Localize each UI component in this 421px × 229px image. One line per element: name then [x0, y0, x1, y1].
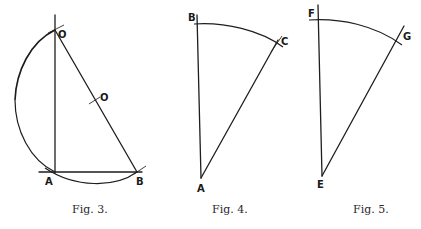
label-f: F: [308, 8, 315, 19]
label-mid-o: O: [100, 92, 109, 103]
caption-fig-3: Fig. 3.: [72, 203, 108, 216]
label-e: E: [317, 179, 324, 190]
label-g: G: [403, 31, 411, 42]
arc-f-g: [309, 20, 402, 45]
label-c: C: [281, 36, 288, 47]
line-a-c: [201, 40, 278, 178]
caption-fig-5: Fig. 5.: [353, 203, 389, 216]
label-b: B: [188, 12, 196, 23]
arc-b-c: [194, 24, 283, 47]
label-a: A: [197, 183, 205, 194]
arc-bottom-a-b: [45, 168, 137, 184]
hypotenuse-o-b: [55, 30, 137, 172]
line-e-g: [322, 26, 404, 176]
line-b-a: [197, 15, 201, 178]
label-b: B: [136, 176, 144, 187]
figure-4: B A C Fig. 4.: [188, 12, 288, 216]
arc-left-lower: [15, 100, 55, 172]
figure-5: F E G Fig. 5.: [308, 5, 411, 216]
caption-fig-4: Fig. 4.: [212, 203, 248, 216]
line-f-e: [318, 5, 322, 176]
figure-3: O O A B Fig. 3.: [15, 15, 146, 216]
label-top-o: O: [58, 29, 67, 40]
label-a: A: [45, 176, 53, 187]
figures-canvas: O O A B Fig. 3. B A C Fig. 4. F E G Fig.…: [0, 0, 421, 229]
arc-left-upper: [15, 30, 55, 100]
